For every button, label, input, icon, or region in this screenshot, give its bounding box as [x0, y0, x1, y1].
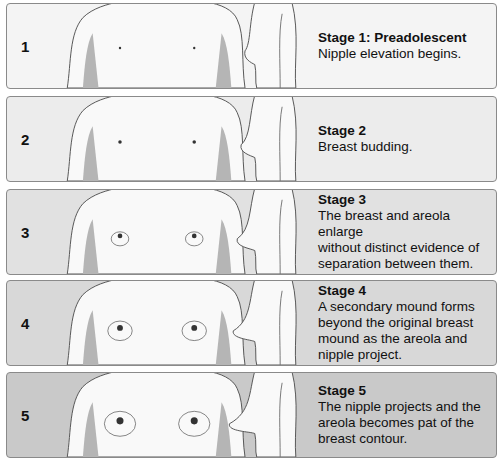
- stage-panel-3: 3Stage 3The breast and areola enlargewit…: [6, 189, 497, 275]
- stage-description-line: mound as the areola and: [318, 331, 475, 347]
- stage-text: Stage 5The nipple projects and theareola…: [318, 373, 481, 457]
- stage-title: Stage 4: [318, 283, 475, 299]
- figure-illustration-icon: [7, 97, 317, 181]
- stage-description-line: separation between them.: [318, 256, 496, 272]
- stage-description-line: beyond the original breast: [318, 315, 475, 331]
- stage-description-line: Nipple elevation begins.: [318, 46, 467, 62]
- stage-text: Stage 1: PreadolescentNipple elevation b…: [318, 4, 467, 88]
- stage-number: 5: [21, 407, 29, 424]
- stage-title: Stage 2: [318, 123, 413, 139]
- stage-panel-4: 4Stage 4A secondary mound formsbeyond th…: [6, 280, 497, 366]
- figure-illustration-icon: [7, 190, 317, 274]
- figure-illustration-icon: [7, 4, 317, 88]
- figure-illustration-icon: [7, 281, 317, 365]
- stage-description-line: The breast and areola enlarge: [318, 208, 496, 240]
- stage-text: Stage 4A secondary mound formsbeyond the…: [318, 281, 475, 365]
- stage-description-line: Breast budding.: [318, 139, 413, 155]
- stage-description-line: without distinct evidence of: [318, 240, 496, 256]
- stage-number: 2: [21, 131, 29, 148]
- stage-panel-2: 2Stage 2Breast budding.: [6, 96, 497, 182]
- stage-title: Stage 5: [318, 383, 481, 399]
- stage-number: 3: [21, 224, 29, 241]
- stage-panel-1: 1Stage 1: PreadolescentNipple elevation …: [6, 3, 497, 89]
- stage-number: 4: [21, 315, 29, 332]
- stage-description-line: The nipple projects and the: [318, 399, 481, 415]
- stage-text: Stage 2Breast budding.: [318, 97, 413, 181]
- stage-description-line: nipple project.: [318, 347, 475, 363]
- stage-description-line: areola becomes pat of the: [318, 415, 481, 431]
- stage-title: Stage 1: Preadolescent: [318, 30, 467, 46]
- stage-description-line: breast contour.: [318, 431, 481, 447]
- stage-text: Stage 3The breast and areola enlargewith…: [318, 190, 496, 274]
- stage-panel-5: 5Stage 5The nipple projects and theareol…: [6, 372, 497, 458]
- stage-title: Stage 3: [318, 192, 496, 208]
- stage-description-line: A secondary mound forms: [318, 299, 475, 315]
- stage-number: 1: [21, 38, 29, 55]
- figure-illustration-icon: [7, 373, 317, 457]
